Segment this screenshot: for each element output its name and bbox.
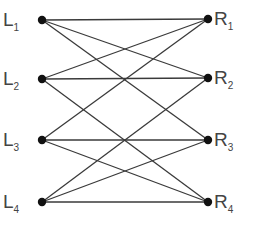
label-letter: L (3, 191, 14, 212)
node-R2 (204, 74, 212, 82)
label-letter: R (214, 191, 228, 212)
label-L2: L2 (3, 69, 19, 88)
node-L2 (38, 75, 46, 83)
bipartite-graph-diagram: L1 L2 L3 L4 R1 R2 R3 R4 (0, 0, 253, 232)
label-R3: R3 (214, 130, 233, 149)
label-L4: L4 (3, 192, 19, 211)
label-R4: R4 (214, 192, 233, 211)
label-letter: R (214, 67, 228, 88)
label-subscript: 3 (228, 142, 234, 153)
edge-L2-R1 (42, 19, 208, 79)
label-subscript: 1 (228, 21, 234, 32)
node-L1 (38, 16, 46, 24)
label-L3: L3 (3, 130, 19, 149)
label-letter: R (214, 8, 228, 29)
nodes-group (38, 15, 212, 206)
label-R1: R1 (214, 9, 233, 28)
label-subscript: 2 (14, 81, 20, 92)
edges-group (42, 19, 208, 202)
label-L1: L1 (3, 10, 19, 29)
node-R3 (204, 136, 212, 144)
label-subscript: 4 (228, 204, 234, 215)
label-subscript: 2 (228, 80, 234, 91)
label-subscript: 4 (14, 204, 20, 215)
label-letter: L (3, 9, 14, 30)
label-subscript: 1 (14, 22, 20, 33)
node-L4 (38, 198, 46, 206)
label-letter: L (3, 68, 14, 89)
edge-L1-R1 (42, 19, 208, 20)
label-letter: R (214, 129, 228, 150)
node-R4 (204, 198, 212, 206)
label-subscript: 3 (14, 142, 20, 153)
label-R2: R2 (214, 68, 233, 87)
label-letter: L (3, 129, 14, 150)
node-R1 (204, 15, 212, 23)
node-L3 (38, 136, 46, 144)
